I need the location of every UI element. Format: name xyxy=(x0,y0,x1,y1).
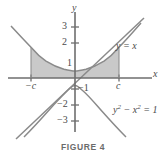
y-axis-label: y xyxy=(72,3,76,13)
tick-label-x-neg-c: −c xyxy=(25,81,36,91)
figure-caption: FIGURE 4 xyxy=(0,142,166,152)
figure-container: y x 3 2 1 −1 −2 −3 −c c y = x y2 − x2 = … xyxy=(0,0,166,163)
tick-label-y-neg3: −3 xyxy=(57,115,68,125)
tick-label-y-3: 3 xyxy=(62,21,67,31)
plot-canvas xyxy=(0,0,166,140)
tick-label-y-2: 2 xyxy=(62,37,67,47)
tick-label-y-1: 1 xyxy=(67,58,72,68)
equation-minus: − xyxy=(121,104,133,115)
tick-label-y-neg1: −1 xyxy=(78,83,89,93)
line-label-y-equals-x: y = x xyxy=(116,41,137,51)
hyperbola-equation-label: y2 − x2 = 1 xyxy=(113,104,157,115)
equation-equals-one: = 1 xyxy=(141,104,158,115)
x-axis-label: x xyxy=(153,69,157,79)
tick-label-y-neg2: −2 xyxy=(57,99,68,109)
tick-label-x-c: c xyxy=(116,81,120,91)
